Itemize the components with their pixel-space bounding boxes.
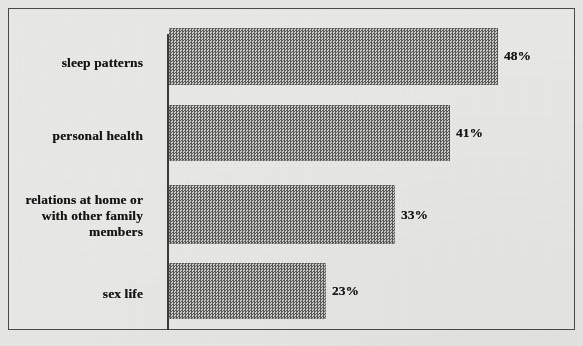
bar-value-label: 48% [504,48,531,64]
bar-category-label-line: personal health [0,128,143,144]
bar-category-label: sleep patterns [0,55,143,71]
bar-value-label: 41% [456,125,483,141]
bar-value-label: 23% [332,283,359,299]
bar-category-label-line: with other family [0,208,143,224]
chart-plot-frame: sleep patterns 48% personal health 41% r… [8,8,575,330]
bar-relations-at-home [169,185,395,244]
bar-value-label: 33% [401,207,428,223]
bar-category-label-line: relations at home or [0,192,143,208]
bar-category-label: sex life [0,286,143,302]
bar-personal-health [169,105,450,161]
bar-category-label-line: members [0,224,143,240]
bar-category-label: relations at home or with other family m… [0,192,143,240]
bar-sex-life [169,263,326,319]
bar-category-label-line: sex life [0,286,143,302]
bar-category-label: personal health [0,128,143,144]
bar-sleep-patterns [169,28,498,85]
bar-category-label-line: sleep patterns [0,55,143,71]
bar-chart-screenshot: sleep patterns 48% personal health 41% r… [0,0,583,346]
